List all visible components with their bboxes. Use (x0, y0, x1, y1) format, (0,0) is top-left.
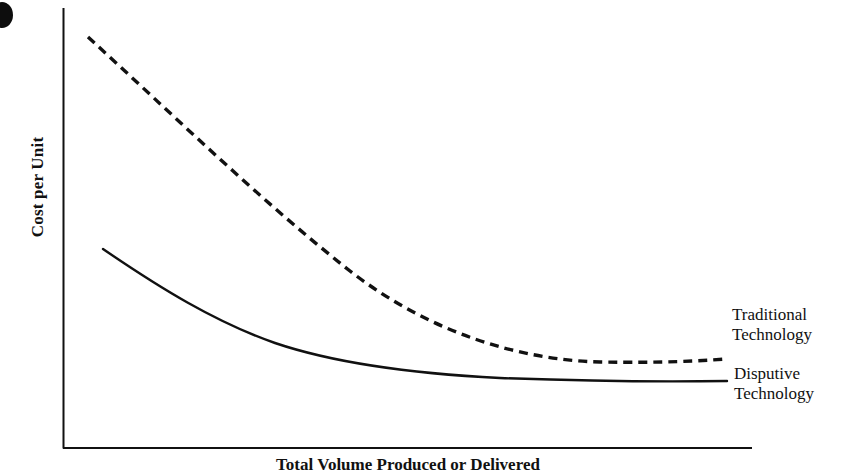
x-axis-title: Total Volume Produced or Delivered (63, 455, 753, 471)
legend-label-disputive-line2: Technology (734, 384, 814, 404)
legend-label-traditional-line1: Traditional (732, 305, 812, 325)
series-disputive-technology-curve (103, 249, 727, 381)
legend-label-disputive-line1: Disputive (734, 364, 814, 384)
legend-label-disputive-technology: Disputive Technology (734, 364, 814, 404)
series-traditional-technology-curve (88, 37, 726, 362)
chart-canvas (0, 0, 845, 471)
y-axis-title: Cost per Unit (28, 122, 48, 252)
figure-container: Cost per Unit Total Volume Produced or D… (0, 0, 845, 471)
legend-label-traditional-line2: Technology (732, 325, 812, 345)
legend-label-traditional-technology: Traditional Technology (732, 305, 812, 345)
